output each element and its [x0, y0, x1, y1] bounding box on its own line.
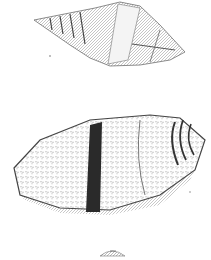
shell-lower	[100, 251, 125, 256]
shell-middle	[14, 115, 205, 215]
figure-label-mark	[49, 55, 51, 57]
figure-label-mark	[189, 191, 191, 193]
shell-plate-illustration	[0, 0, 211, 260]
shell-upper	[34, 2, 185, 66]
